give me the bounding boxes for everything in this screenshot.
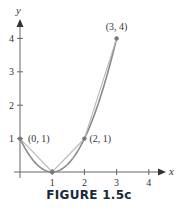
data-point [50,170,54,174]
y-axis-label: y [15,4,21,16]
x-tick-label: 2 [82,177,87,188]
y-tick-label: 1 [9,133,14,144]
x-tick-label: 4 [146,177,151,188]
polygonal-line [20,38,117,172]
figure-caption: FIGURE 1.5c [0,188,178,202]
series [18,36,119,174]
point-label: (3, 4) [106,21,128,33]
point-label: (2, 1) [89,133,111,145]
data-point [82,136,86,140]
x-axis-label: x [168,165,174,177]
data-point [18,136,22,140]
y-axis-arrow-icon [17,19,24,27]
curve-line [20,38,117,172]
x-tick-label: 3 [114,177,119,188]
y-tick-label: 3 [9,66,14,77]
annotations: (0, 1)(2, 1)(3, 4) [28,21,127,144]
y-tick-label: 2 [9,100,14,111]
figure-chart: 12341234 x y (0, 1)(2, 1)(3, 4) [0,0,178,190]
y-tick-label: 4 [9,33,14,44]
data-point [114,36,118,40]
ticks: 12341234 [9,33,151,188]
point-label: (0, 1) [28,133,50,145]
x-axis-arrow-icon [158,169,166,176]
x-tick-label: 1 [50,177,55,188]
axes [14,19,166,178]
